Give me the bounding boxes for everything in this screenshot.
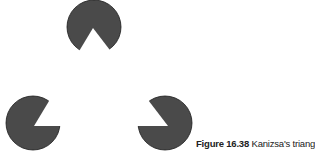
figure-caption: Figure 16.38 Kanizsa's triangle. <box>196 138 315 149</box>
figure-title: Kanizsa's triangle. <box>252 138 316 149</box>
figure-label: Figure 16.38 <box>196 138 249 149</box>
illusory-triangle <box>34 28 168 126</box>
